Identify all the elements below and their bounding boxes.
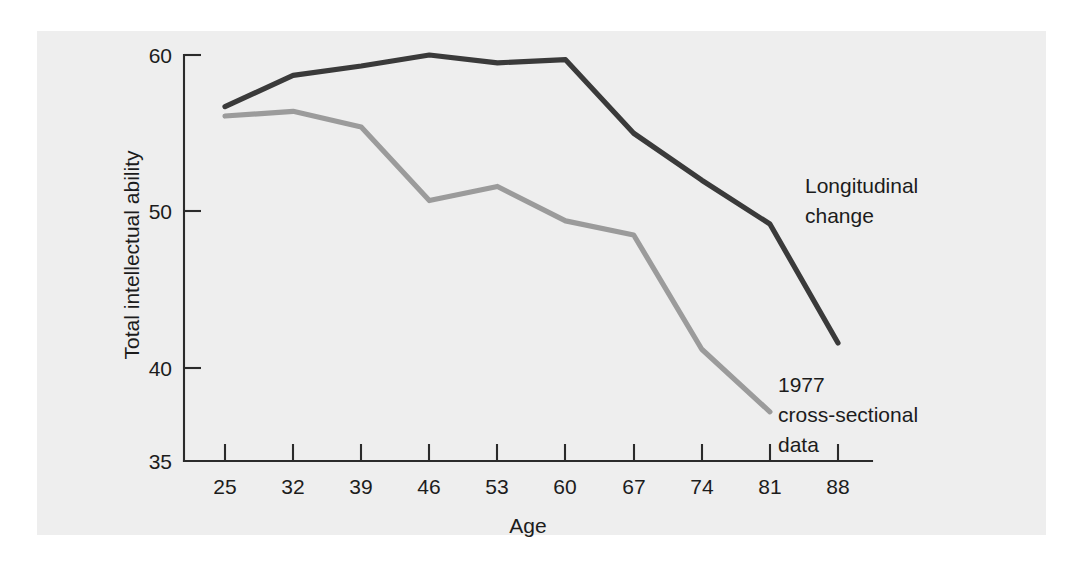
series-longitudinal-change: [225, 55, 838, 343]
x-tick-label-60: 60: [553, 475, 576, 498]
x-tick-label-67: 67: [622, 475, 645, 498]
annotation-cross-sectional-data: 1977 cross-sectional data: [778, 373, 918, 456]
series-cross-sectional-data: [225, 111, 770, 411]
chart-figure: 60 50 40 35 25 32 39 46 53 60 67 74 81 8…: [0, 0, 1087, 563]
x-tick-label-81: 81: [758, 475, 781, 498]
chart-plot-area: 60 50 40 35 25 32 39 46 53 60 67 74 81 8…: [0, 0, 1087, 563]
y-tick-label-40: 40: [149, 357, 172, 380]
annotation-longitudinal-change: Longitudinal change: [805, 174, 918, 227]
y-tick-label-35: 35: [149, 450, 172, 473]
x-tick-label-74: 74: [690, 475, 714, 498]
x-tick-label-32: 32: [281, 475, 304, 498]
x-tick-label-53: 53: [485, 475, 508, 498]
y-tick-label-60: 60: [149, 44, 172, 67]
y-axis-title: Total intellectual ability: [120, 150, 143, 359]
annotation-cross-sectional-line1: 1977: [778, 373, 825, 396]
x-tick-label-25: 25: [213, 475, 236, 498]
y-tick-label-50: 50: [149, 200, 172, 223]
x-axis-title: Age: [509, 514, 546, 537]
annotation-cross-sectional-line3: data: [778, 433, 819, 456]
x-tick-label-39: 39: [349, 475, 372, 498]
annotation-longitudinal-line2: change: [805, 204, 874, 227]
annotation-longitudinal-line1: Longitudinal: [805, 174, 918, 197]
annotation-cross-sectional-line2: cross-sectional: [778, 403, 918, 426]
x-tick-label-88: 88: [826, 475, 849, 498]
x-tick-label-46: 46: [417, 475, 440, 498]
